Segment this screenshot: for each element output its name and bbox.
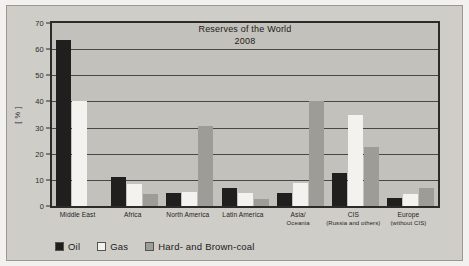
bar[interactable] <box>348 115 363 207</box>
bar-group <box>111 23 159 206</box>
bar[interactable] <box>238 193 253 206</box>
x-axis-label-main: Asia/ <box>291 211 306 218</box>
y-axis-tick-label: 50 <box>35 71 44 80</box>
x-axis-label-main: North America <box>166 211 209 218</box>
x-axis-label: North America <box>160 210 215 219</box>
x-axis-label-main: Middle East <box>60 211 96 218</box>
plot-inner <box>52 23 438 206</box>
y-axis-tick-label: 20 <box>35 149 44 158</box>
plot-area <box>50 21 440 208</box>
bar[interactable] <box>56 40 71 206</box>
x-axis-labels: Middle EastAfricaNorth AmericaLatin Amer… <box>50 210 440 240</box>
bar[interactable] <box>182 192 197 206</box>
bar[interactable] <box>403 194 418 206</box>
y-axis-tick-label: 10 <box>35 175 44 184</box>
bar[interactable] <box>127 184 142 206</box>
y-axis-tick-label: 70 <box>35 19 44 28</box>
legend-swatch-icon <box>55 242 64 251</box>
bar[interactable] <box>332 173 347 206</box>
bar[interactable] <box>277 193 292 206</box>
bar[interactable] <box>387 198 402 206</box>
x-axis-label-main: Latin America <box>222 211 263 218</box>
figure-root: [ % ] 010203040506070 Reserves of the Wo… <box>0 0 469 266</box>
bar-group <box>387 23 435 206</box>
x-axis-label: Africa <box>105 210 160 219</box>
x-axis-label: CIS(Russia and others) <box>326 210 381 228</box>
bar[interactable] <box>222 188 237 206</box>
x-axis-label: Asia/Oceania <box>271 210 326 228</box>
bar[interactable] <box>72 101 87 206</box>
legend-item[interactable]: Hard- and Brown-coal <box>145 241 254 252</box>
x-axis-label-main: Africa <box>124 211 141 218</box>
bar-group <box>56 23 104 206</box>
bar[interactable] <box>254 199 269 206</box>
bar[interactable] <box>143 194 158 206</box>
y-axis-title: [ % ] <box>13 106 22 124</box>
bar-group <box>222 23 270 206</box>
x-axis-label: Latin America <box>215 210 270 219</box>
chart-title: Reserves of the World 2008 <box>50 23 440 47</box>
bar[interactable] <box>166 193 181 206</box>
x-axis-label: Europe(without CIS) <box>381 210 436 228</box>
bar[interactable] <box>364 147 379 206</box>
x-axis-label-sub: (without CIS) <box>381 219 436 228</box>
bar[interactable] <box>419 188 434 206</box>
chart-title-main: Reserves of the World <box>198 24 291 34</box>
y-axis-tick-label: 60 <box>35 45 44 54</box>
bar[interactable] <box>111 177 126 206</box>
y-axis-tick-label: 30 <box>35 123 44 132</box>
legend-swatch-icon <box>97 242 106 251</box>
legend-item[interactable]: Gas <box>97 241 128 252</box>
legend-item[interactable]: Oil <box>55 241 80 252</box>
legend-label: Hard- and Brown-coal <box>158 241 254 252</box>
bar[interactable] <box>293 183 308 206</box>
legend-label: Gas <box>110 241 128 252</box>
bar[interactable] <box>309 101 324 206</box>
y-axis-tick-label: 40 <box>35 97 44 106</box>
legend-swatch-icon <box>145 242 154 251</box>
y-axis-tick-label: 0 <box>40 202 44 211</box>
bar-group <box>332 23 380 206</box>
bar-group <box>166 23 214 206</box>
legend-label: Oil <box>68 241 80 252</box>
bar-group <box>277 23 325 206</box>
y-axis: [ % ] 010203040506070 <box>7 21 50 208</box>
x-axis-label: Middle East <box>50 210 105 219</box>
chart-title-year: 2008 <box>50 35 440 47</box>
chart-card: [ % ] 010203040506070 Reserves of the Wo… <box>6 5 463 261</box>
x-axis-label-main: CIS <box>348 211 359 218</box>
chart-legend: OilGasHard- and Brown-coal <box>55 241 268 252</box>
x-axis-label-sub: (Russia and others) <box>326 219 381 228</box>
x-axis-label-sub: Oceania <box>271 219 326 228</box>
x-axis-label-main: Europe <box>397 211 419 218</box>
bar[interactable] <box>198 126 213 206</box>
